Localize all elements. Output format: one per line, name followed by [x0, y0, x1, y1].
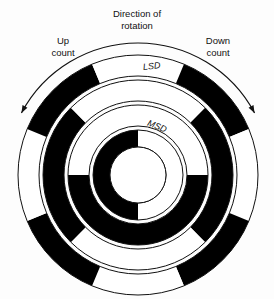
disk-hub	[110, 147, 166, 203]
down-count-label-line1: Down	[206, 35, 230, 46]
lsd-label-group: LSD	[142, 60, 161, 72]
encoder-disk-figure: Direction of rotation Up count Down coun…	[0, 0, 274, 299]
encoder-tracks	[18, 55, 258, 295]
up-count-label-line2: count	[51, 47, 75, 58]
up-count-label-line1: Up	[57, 35, 69, 46]
direction-label-line2: rotation	[121, 20, 153, 31]
encoder-disk-svg: Direction of rotation Up count Down coun…	[0, 0, 274, 299]
down-count-label-line2: count	[206, 47, 230, 58]
direction-label-line1: Direction of	[113, 8, 161, 19]
lsd-label: LSD	[142, 60, 161, 72]
